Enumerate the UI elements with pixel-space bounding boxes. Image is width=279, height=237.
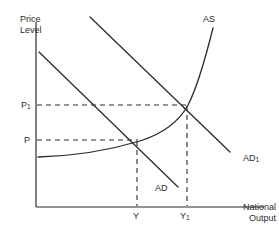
y-axis-label: Price Level [20, 14, 42, 35]
tick-label-output-upper: Y1 [180, 211, 190, 223]
tick-label-price-lower: P [24, 135, 30, 146]
tick-label-price-upper-subscript: 1 [27, 103, 31, 110]
x-axis-label: National Output [222, 202, 276, 223]
curve-label-ad1-text: AD [243, 153, 256, 163]
curve-label-ad: AD [155, 183, 168, 194]
tick-label-output-upper-subscript: 1 [186, 214, 190, 221]
ad-curve [39, 52, 178, 187]
curve-label-as: AS [203, 14, 215, 25]
tick-label-price-upper: P1 [21, 100, 31, 112]
curve-label-ad1: AD1 [243, 153, 259, 165]
tick-label-output-lower: Y [133, 211, 139, 222]
ad-as-diagram: Price Level National Output P1 P Y Y1 AS… [0, 0, 279, 237]
curve-label-ad1-subscript: 1 [256, 156, 260, 163]
